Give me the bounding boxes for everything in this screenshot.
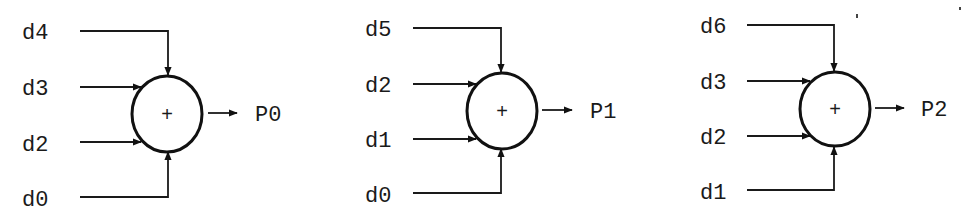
- adder-block-p2: d6 d3 d2 d1 + P2: [700, 15, 947, 206]
- output-label-p2: P2: [921, 98, 947, 123]
- diagram-canvas: d4 d3 d2 d0 + P0 d5 d2 d1 d0 + P1 d6 d3 …: [0, 0, 977, 218]
- plus-operator-icon: +: [161, 103, 173, 125]
- output-label-p0: P0: [255, 103, 281, 128]
- input-label-d3: d3: [22, 77, 48, 102]
- adder-block-p0: d4 d3 d2 d0 + P0: [22, 21, 281, 213]
- input-label-d1: d1: [700, 181, 726, 206]
- input-label-d6: d6: [700, 15, 726, 40]
- input-label-d0: d0: [22, 188, 48, 213]
- input-label-d5: d5: [365, 18, 391, 43]
- input-label-d2: d2: [700, 126, 726, 151]
- adder-block-p1: d5 d2 d1 d0 + P1: [365, 18, 616, 209]
- input-wire-bottom: [80, 152, 168, 197]
- input-label-d0: d0: [365, 184, 391, 209]
- output-label-p1: P1: [590, 100, 616, 125]
- input-wire-bottom: [747, 147, 834, 190]
- plus-operator-icon: +: [829, 98, 841, 120]
- input-wire-bottom: [413, 149, 501, 193]
- plus-operator-icon: +: [496, 100, 508, 122]
- input-label-d2: d2: [22, 133, 48, 158]
- input-wire-top: [413, 28, 501, 72]
- input-label-d3: d3: [700, 71, 726, 96]
- input-label-d2: d2: [365, 74, 391, 99]
- input-wire-top: [747, 25, 834, 71]
- scan-artifact: [959, 7, 961, 10]
- scan-artifact: [856, 14, 858, 18]
- input-label-d4: d4: [22, 21, 48, 46]
- input-label-d1: d1: [365, 129, 391, 154]
- input-wire-top: [80, 31, 168, 75]
